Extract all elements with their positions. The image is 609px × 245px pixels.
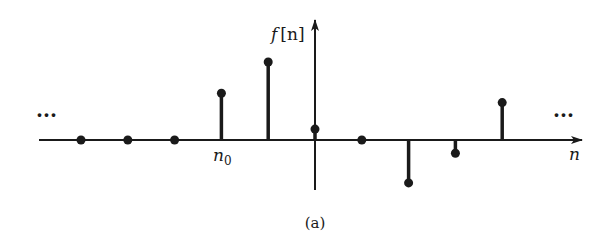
- stem-dot: [217, 89, 226, 98]
- continuation-left: ···: [36, 103, 57, 127]
- stem-dot: [357, 136, 366, 145]
- y-axis-label: f[n]: [269, 24, 305, 44]
- stem-plot: ··· ··· f[n] n n0 (a): [0, 0, 609, 245]
- stem-dot: [498, 98, 507, 107]
- stem-dot: [77, 136, 86, 145]
- stem-dot: [123, 136, 132, 145]
- y-label-func: f: [269, 24, 280, 44]
- x-axis-label: n: [569, 144, 580, 164]
- figure-caption: (a): [305, 214, 326, 232]
- stem-dot: [451, 149, 460, 158]
- n0-sub: 0: [224, 154, 232, 168]
- stem-dot: [264, 58, 273, 67]
- n0-main: n: [213, 145, 224, 165]
- stem-dot: [311, 125, 320, 134]
- stem-dot: [404, 178, 413, 187]
- y-label-arg: [n]: [280, 24, 304, 44]
- n0-label: n0: [213, 145, 232, 168]
- stem-series: [77, 58, 507, 188]
- continuation-right: ···: [553, 103, 574, 127]
- stem-dot: [170, 136, 179, 145]
